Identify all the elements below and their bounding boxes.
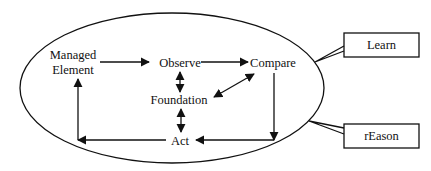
learn-label: Learn [367,38,397,52]
managed-element-label-line1: Managed [50,48,97,62]
reason-callout-tail [309,121,344,134]
act-label: Act [171,134,190,148]
learn-callout: Learn [315,33,419,62]
foundation-label: Foundation [151,93,209,107]
compare-label: Compare [250,56,296,70]
managed-element-label-line2: Element [52,63,94,77]
learn-callout-tail [315,46,344,62]
arrow-compare-foundation [214,74,254,97]
reason-callout: rEason [309,121,419,148]
control-loop-diagram: Learn rEason Managed Element Observe Com… [0,0,431,171]
reason-label: rEason [364,129,399,143]
observe-label: Observe [159,56,201,70]
